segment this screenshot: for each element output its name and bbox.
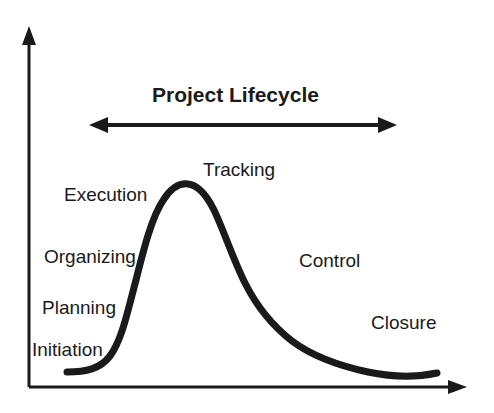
phase-label-organizing: Organizing: [44, 247, 136, 266]
chart-title: Project Lifecycle: [152, 84, 319, 105]
phase-label-planning: Planning: [42, 298, 116, 317]
lifecycle-curve: [67, 184, 437, 376]
vertical-axis: [22, 26, 36, 387]
lifecycle-span-arrow: [89, 117, 397, 133]
horizontal-axis: [29, 380, 467, 394]
project-lifecycle-diagram: Project Lifecycle Tracking Execution Org…: [0, 0, 494, 413]
phase-label-tracking: Tracking: [203, 160, 275, 179]
phase-label-closure: Closure: [371, 313, 436, 332]
phase-label-control: Control: [299, 251, 360, 270]
phase-label-initiation: Initiation: [32, 340, 103, 359]
phase-label-execution: Execution: [64, 185, 147, 204]
